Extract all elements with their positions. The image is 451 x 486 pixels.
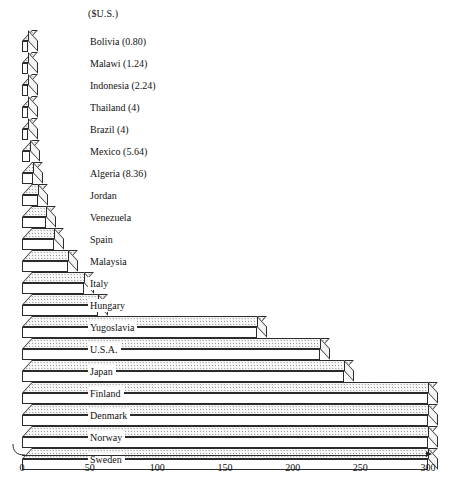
bar-label: Hungary [88,299,128,312]
bar-row: Venezuela [0,206,451,228]
bar-prism[interactable] [22,272,94,294]
bar-row: Indonesia (2.24) [0,74,451,96]
bar-top-face [22,404,438,415]
x-axis-tick-label: 150 [218,462,233,473]
bar-top-face [22,448,438,459]
bar-row: Thailand (4) [0,96,451,118]
x-axis-arrow-icon [426,451,432,457]
bar-top-face [22,316,267,327]
bar-front-face [22,437,428,448]
bar-front-face [22,283,84,294]
x-axis-tick-label: 50 [85,462,95,473]
bar-front-face [22,415,428,426]
bar-prism[interactable] [22,360,354,382]
bar-label: Finland [88,387,124,400]
bar-front-face [22,371,344,382]
x-axis-tick-label: 0 [20,462,25,473]
bar-row: Finland [0,382,451,404]
bar-prism[interactable] [22,184,48,206]
bar-label: U.S.A. [88,343,121,356]
bar-row: Malawi (1.24) [0,52,451,74]
bar-prism[interactable] [22,52,38,74]
bar-front-face [22,195,38,206]
bar-label: Malaysia [88,255,130,268]
bar-front-face [22,349,320,360]
bar-prism[interactable] [22,162,43,184]
bar-front-face [22,217,46,228]
bar-row: Japan [0,360,451,382]
bar-front-face [22,393,428,404]
bar-top-face [22,360,354,371]
bar-prism[interactable] [22,96,38,118]
bar-prism[interactable] [22,228,64,250]
bar-prism[interactable] [22,338,330,360]
bar-row: Brazil (4) [0,118,451,140]
bar-label: Venezuela [88,211,134,224]
bar-row: Mexico (5.64) [0,140,451,162]
bar-row: Bolivia (0.80) [0,30,451,52]
bar-front-face [22,151,30,162]
bar-prism[interactable] [22,250,78,272]
bar-label: Italy [88,277,111,290]
bar-label: Japan [88,365,116,378]
bar-label: Thailand (4) [88,101,143,114]
chart-root: ($U.S.) Bolivia (0.80)Malawi (1.24)Indon… [0,0,451,486]
x-axis-tick-label: 200 [285,462,300,473]
bar-label: Spain [88,233,116,246]
bar-label: Norway [88,431,125,444]
bar-prism[interactable] [22,404,438,426]
bar-prism[interactable] [22,140,40,162]
bar-prism[interactable] [22,206,56,228]
bar-prism[interactable] [22,316,267,338]
bar-row: Hungary [0,294,451,316]
bar-prism[interactable] [22,382,438,404]
bar-row: U.S.A. [0,338,451,360]
bar-prism[interactable] [22,30,38,52]
bar-front-face [22,173,33,184]
bar-row: Algeria (8.36) [0,162,451,184]
bar-row: Jordan [0,184,451,206]
bar-label: Denmark [88,409,130,422]
bar-label: Indonesia (2.24) [88,79,159,92]
bar-label: Yugoslavia [88,321,137,334]
bar-row: Malaysia [0,250,451,272]
bar-row: Yugoslavia [0,316,451,338]
x-axis-tick-label: 100 [150,462,165,473]
bar-label: Bolivia (0.80) [88,35,149,48]
bar-label: Malawi (1.24) [88,57,150,70]
bar-label: Brazil (4) [88,123,132,136]
bar-top-face [22,382,438,393]
bar-label: Jordan [88,189,120,202]
bar-prism[interactable] [22,118,38,140]
bar-top-face [22,426,438,437]
bar-top-face [22,338,330,349]
bar-label: Algeria (8.36) [88,167,150,180]
bar-front-face [22,305,98,316]
bar-row: Norway [0,426,451,448]
x-axis-tick-label: 300 [421,462,436,473]
bar-front-face [22,239,54,250]
bar-row: Spain [0,228,451,250]
bar-prism[interactable] [22,74,38,96]
bar-label: Mexico (5.64) [88,145,150,158]
bar-row: Denmark [0,404,451,426]
bar-front-face [22,129,28,140]
bar-front-face [22,327,257,338]
x-axis-tick-label: 250 [353,462,368,473]
bar-prism[interactable] [22,426,438,448]
bar-front-face [22,261,68,272]
x-axis-line [22,455,429,456]
plot-area: Bolivia (0.80)Malawi (1.24)Indonesia (2.… [0,0,451,460]
bar-row: Italy [0,272,451,294]
